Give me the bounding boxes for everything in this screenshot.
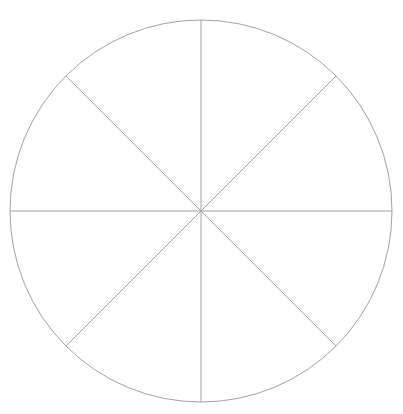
circle-sector-figure [0,0,403,414]
